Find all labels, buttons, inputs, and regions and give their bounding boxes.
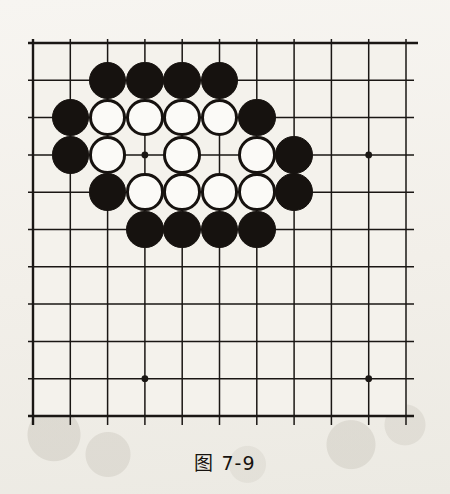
black-stone[interactable]	[201, 62, 239, 100]
star-point	[365, 152, 372, 159]
black-stone[interactable]	[275, 136, 313, 174]
black-stone[interactable]	[89, 62, 127, 100]
white-stone[interactable]	[238, 173, 276, 211]
go-board-figure: 图 7-9	[0, 0, 450, 494]
go-board[interactable]	[33, 43, 403, 418]
black-stone[interactable]	[238, 211, 276, 249]
white-stone[interactable]	[163, 99, 201, 137]
white-stone[interactable]	[163, 173, 201, 211]
white-stone[interactable]	[201, 173, 239, 211]
black-stone[interactable]	[126, 211, 164, 249]
white-stone[interactable]	[126, 173, 164, 211]
star-point	[142, 375, 149, 382]
black-stone[interactable]	[238, 99, 276, 137]
black-stone[interactable]	[52, 136, 90, 174]
black-stone[interactable]	[89, 173, 127, 211]
black-stone[interactable]	[52, 99, 90, 137]
figure-caption: 图 7-9	[0, 448, 450, 475]
black-stone[interactable]	[163, 211, 201, 249]
star-point	[365, 375, 372, 382]
black-stone[interactable]	[275, 173, 313, 211]
black-stone[interactable]	[163, 62, 201, 100]
white-stone[interactable]	[126, 99, 164, 137]
white-stone[interactable]	[163, 136, 201, 174]
white-stone[interactable]	[238, 136, 276, 174]
white-stone[interactable]	[89, 136, 127, 174]
star-point	[142, 152, 149, 159]
black-stone[interactable]	[126, 62, 164, 100]
